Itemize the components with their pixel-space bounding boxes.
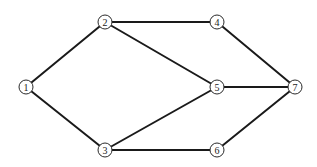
node-label: 3 [103, 145, 108, 156]
node-2: 2 [98, 15, 112, 29]
graph-diagram: 1234567 [0, 0, 317, 167]
edge-3-5 [105, 87, 217, 150]
edge-6-7 [217, 87, 295, 150]
edge-1-2 [26, 22, 105, 87]
node-3: 3 [98, 143, 112, 157]
node-5: 5 [210, 80, 224, 94]
edge-4-7 [217, 22, 295, 87]
node-label: 1 [24, 82, 29, 93]
node-6: 6 [210, 143, 224, 157]
node-label: 5 [215, 82, 220, 93]
edge-1-3 [26, 87, 105, 150]
edge-2-5 [105, 22, 217, 87]
node-label: 4 [215, 17, 220, 28]
node-1: 1 [19, 80, 33, 94]
node-7: 7 [288, 80, 302, 94]
node-label: 6 [215, 145, 220, 156]
node-4: 4 [210, 15, 224, 29]
node-label: 2 [103, 17, 108, 28]
node-label: 7 [293, 82, 298, 93]
edges-layer [26, 22, 295, 150]
